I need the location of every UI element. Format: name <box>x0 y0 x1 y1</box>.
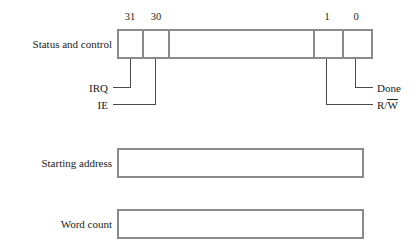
signal-label-done: Done <box>377 82 415 94</box>
read-write-leader-vertical <box>326 59 327 105</box>
bit-number-30: 30 <box>144 11 168 22</box>
bit-number-31: 31 <box>118 11 142 22</box>
register-label-word-count: Word count <box>2 218 112 230</box>
bit-divider-rest-1 <box>313 29 315 59</box>
done-leader-horizontal <box>355 87 373 88</box>
bit-divider-30-rest <box>168 29 170 59</box>
bit-number-0: 0 <box>344 11 368 22</box>
irq-leader-vertical <box>130 59 131 88</box>
register-label-status-and-control: Status and control <box>2 38 112 50</box>
ie-leader-horizontal <box>113 104 156 105</box>
ie-leader-vertical <box>155 59 156 105</box>
bit-divider-1-0 <box>342 29 344 59</box>
done-leader-vertical <box>355 59 356 88</box>
read-write-prefix: R/ <box>377 99 387 111</box>
read-write-overbar-w: W <box>387 99 397 111</box>
read-write-leader-horizontal <box>326 104 373 105</box>
irq-leader-horizontal <box>113 87 131 88</box>
starting-address-register-box <box>117 148 364 178</box>
status-and-control-register-box <box>117 29 373 59</box>
word-count-register-box <box>117 209 364 239</box>
register-label-starting-address: Starting address <box>2 157 112 169</box>
signal-label-ie: IE <box>40 99 108 111</box>
signal-label-read-write: R/W <box>377 99 416 111</box>
bit-number-1: 1 <box>315 11 339 22</box>
dma-register-diagram: 31 30 1 0 Status and control IRQ IE Done… <box>0 0 416 252</box>
bit-divider-31-30 <box>142 29 144 59</box>
signal-label-irq: IRQ <box>40 82 108 94</box>
